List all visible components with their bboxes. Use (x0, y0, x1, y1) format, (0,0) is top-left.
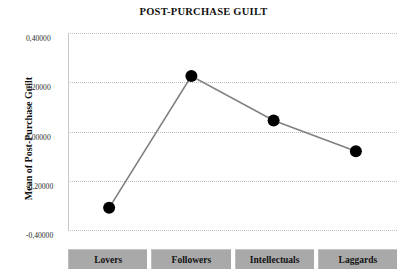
y-axis-tick-label: 0,20000 (26, 83, 68, 92)
y-axis-tick-label: -0,20000 (26, 182, 68, 191)
series-line-guilt (68, 33, 397, 230)
category-label-box: Laggards (318, 249, 397, 269)
y-axis-tick-label: -0,40000 (26, 231, 68, 240)
y-axis-tick-label: 0,40000 (26, 34, 68, 43)
series-line (109, 76, 356, 208)
post-purchase-guilt-chart: POST-PURCHASE GUILT Mean of Post-Purchas… (0, 0, 407, 278)
data-point-marker (185, 70, 197, 82)
gridline (68, 230, 397, 231)
plot-area (68, 33, 397, 230)
category-label-box: Intellectuals (235, 249, 314, 269)
data-point-marker (103, 202, 115, 214)
y-axis-tick-label: 0,00000 (26, 133, 68, 142)
page-title: POST-PURCHASE GUILT (0, 6, 407, 17)
data-point-marker (268, 114, 280, 126)
data-point-marker (350, 145, 362, 157)
category-label-box: Lovers (68, 249, 147, 269)
x-axis-category-labels: LoversFollowersIntellectualsLaggards (68, 249, 397, 269)
category-label-box: Followers (151, 249, 230, 269)
